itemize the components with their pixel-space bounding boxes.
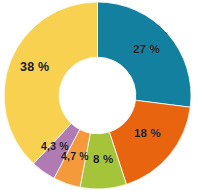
slice-label-6: 38 % [20,61,49,74]
slice-label-2: 18 % [134,128,161,140]
slice-label-4: 4,7 % [61,151,89,162]
donut-chart: 27 % 18 % 8 % 4,7 % 4,3 % 38 % [0,0,202,191]
slice-label-3: 8 % [93,154,113,166]
slice-label-1: 27 % [133,44,160,56]
slice-label-5: 4,3 % [41,141,69,152]
